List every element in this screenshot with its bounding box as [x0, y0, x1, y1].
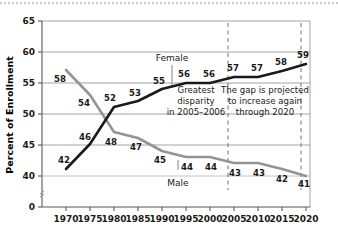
annotation-line: The gap is projected: [220, 85, 309, 95]
x-tick-label: 1970: [53, 214, 78, 224]
female-series-label: Female: [156, 53, 189, 63]
projected-gap-note: The gap is projected to increase again t…: [220, 85, 309, 117]
annotation-line: through 2020: [236, 107, 294, 117]
data-label-male: 54: [78, 98, 90, 108]
data-label-male: 44: [181, 162, 193, 172]
x-tick-label: 1990: [149, 214, 174, 224]
data-label-male: 58: [54, 74, 66, 84]
data-label-female: 57: [227, 63, 239, 73]
data-label-male: 41: [298, 179, 310, 189]
y-axis-title: Percent of Enrollment: [4, 56, 15, 174]
x-tick-label: 1995: [173, 214, 198, 224]
annotation-line: in 2005–2006: [167, 107, 226, 117]
y-tick-label: 45: [22, 140, 35, 150]
x-tick-label: 2010: [245, 214, 270, 224]
x-tick-label: 1975: [77, 214, 102, 224]
y-tick-label: 0: [29, 202, 35, 212]
data-label-female: 58: [275, 57, 287, 67]
y-tick-label: 55: [22, 78, 35, 88]
annotation-line: disparity: [177, 96, 214, 106]
annotation-line: to increase again: [228, 96, 302, 106]
data-label-male: 48: [105, 137, 117, 147]
annotation-line: Greatest: [177, 85, 215, 95]
data-label-female: 56: [203, 69, 215, 79]
data-label-female: 46: [79, 132, 91, 142]
y-tick-label: 60: [22, 47, 35, 57]
data-label-female: 57: [251, 63, 263, 73]
x-tick-label: 2015: [269, 214, 294, 224]
y-tick-labels: 65 60 55 50 45 40 0: [22, 16, 35, 212]
y-tick-label: 65: [22, 16, 35, 26]
x-tick-label: 2005: [221, 214, 246, 224]
y-tick-label: 40: [22, 171, 35, 181]
data-label-male: 44: [205, 162, 217, 172]
data-label-female: 56: [178, 69, 190, 79]
male-series-label: Male: [167, 178, 189, 188]
data-label-female: 42: [58, 155, 70, 165]
data-label-female: 53: [129, 88, 141, 98]
data-label-male: 47: [130, 142, 142, 152]
x-tick-label: 1980: [101, 214, 126, 224]
data-label-male: 42: [276, 174, 288, 184]
data-label-male: 43: [229, 168, 241, 178]
x-tick-labels: 1970 1975 1980 1985 1990 1995 2000 2005 …: [53, 214, 318, 224]
x-tick-marks: [66, 207, 306, 211]
data-label-male: 43: [253, 168, 265, 178]
data-label-female: 59: [297, 50, 309, 60]
y-tick-marks: [38, 21, 42, 207]
enrollment-line-chart: 65 60 55 50 45 40 0 Percent of Enrollmen…: [0, 0, 338, 243]
x-tick-label: 1985: [125, 214, 150, 224]
x-tick-label: 2000: [197, 214, 222, 224]
x-tick-label: 2020: [293, 214, 318, 224]
data-label-female: 52: [104, 93, 116, 103]
data-label-female: 55: [153, 76, 165, 86]
y-tick-label: 50: [22, 109, 35, 119]
data-label-male: 45: [154, 155, 166, 165]
greatest-disparity-note: Greatest disparity in 2005–2006: [167, 85, 226, 117]
